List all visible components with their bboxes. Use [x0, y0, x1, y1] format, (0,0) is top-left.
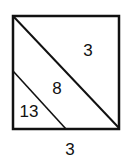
diagram-canvas — [0, 0, 127, 162]
region-label-lower: 13 — [20, 103, 39, 120]
side-length-label: 3 — [65, 141, 74, 158]
region-label-middle: 8 — [52, 80, 61, 97]
region-label-upper: 3 — [83, 42, 92, 59]
